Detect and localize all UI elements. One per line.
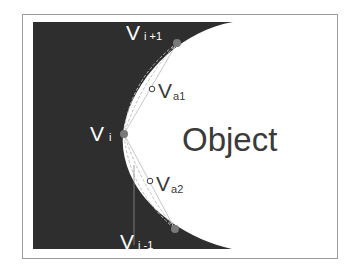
aux-point-a1 (149, 86, 155, 92)
object-region-label: Object (182, 121, 277, 158)
vertex-v-i (120, 130, 128, 138)
vertex-v-i-minus-1 (171, 225, 179, 233)
subscript: i +1 (144, 30, 162, 42)
subscript: i -1 (138, 239, 153, 251)
subscript: a2 (171, 183, 183, 195)
contour-diagram: Vi +1 Vi Vi -1 Va1 Va2 Object (0, 0, 355, 268)
vertex-v-i-plus-1 (173, 39, 181, 47)
subscript: a1 (173, 90, 185, 102)
aux-point-a2 (147, 178, 153, 184)
subscript: i (109, 131, 111, 143)
